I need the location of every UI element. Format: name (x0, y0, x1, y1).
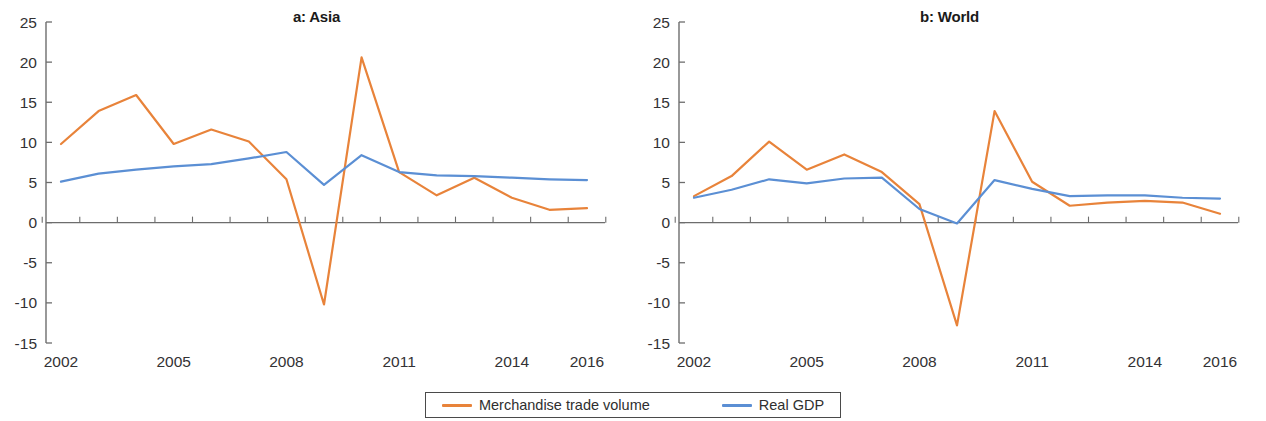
x-tick-label: 2016 (570, 353, 604, 370)
x-tick-label: 2005 (789, 353, 823, 370)
series-line-merchandise-trade-volume (61, 57, 587, 304)
y-tick-label: 5 (661, 174, 670, 191)
chart-legend: Merchandise trade volume Real GDP (0, 392, 1266, 418)
x-tick-label: 2011 (1015, 353, 1048, 370)
x-tick-label: 2002 (44, 353, 78, 370)
y-tick-label: 25 (653, 14, 670, 31)
y-tick-label: 15 (20, 94, 37, 111)
panel-a-plot: 2520151050-5-10-152002200520082011201420… (0, 0, 633, 388)
y-tick-label: -5 (656, 254, 670, 271)
x-tick-label: 2014 (1128, 353, 1163, 370)
y-tick-label: -10 (15, 294, 38, 311)
series-line-real-gdp (61, 152, 587, 185)
legend-line-icon-real-gdp (722, 404, 752, 407)
y-tick-label: 20 (20, 54, 38, 71)
y-tick-label: 25 (20, 14, 37, 31)
chart-panels: a: Asia 2520151050-5-10-1520022005200820… (0, 0, 1266, 388)
x-tick-label: 2011 (382, 353, 415, 370)
x-tick-label: 2008 (269, 353, 303, 370)
y-tick-label: 15 (653, 94, 670, 111)
x-tick-label: 2014 (495, 353, 530, 370)
y-tick-label: 10 (20, 134, 38, 151)
x-tick-label: 2016 (1203, 353, 1237, 370)
legend-label-real-gdp: Real GDP (759, 397, 824, 413)
legend-label-merchandise: Merchandise trade volume (479, 397, 650, 413)
series-line-merchandise-trade-volume (694, 111, 1220, 325)
legend-item-merchandise-trade-volume: Merchandise trade volume (436, 397, 656, 413)
x-tick-label: 2002 (677, 353, 711, 370)
legend-box: Merchandise trade volume Real GDP (425, 392, 841, 418)
figure-two-line-charts: a: Asia 2520151050-5-10-1520022005200820… (0, 0, 1266, 421)
x-tick-label: 2008 (902, 353, 936, 370)
panel-b-world: b: World 2520151050-5-10-152002200520082… (633, 0, 1266, 388)
y-tick-label: -15 (15, 335, 37, 352)
y-tick-label: -5 (23, 254, 37, 271)
panel-a-asia: a: Asia 2520151050-5-10-1520022005200820… (0, 0, 633, 388)
panel-b-plot: 2520151050-5-10-152002200520082011201420… (633, 0, 1266, 388)
legend-item-real-gdp: Real GDP (716, 397, 830, 413)
y-tick-label: 10 (653, 134, 671, 151)
y-tick-label: 0 (28, 214, 37, 231)
y-tick-label: 20 (653, 54, 671, 71)
x-tick-label: 2005 (156, 353, 190, 370)
y-tick-label: -15 (648, 335, 670, 352)
legend-line-icon-merchandise (442, 404, 472, 407)
y-tick-label: -10 (648, 294, 671, 311)
y-tick-label: 0 (661, 214, 670, 231)
y-tick-label: 5 (28, 174, 37, 191)
